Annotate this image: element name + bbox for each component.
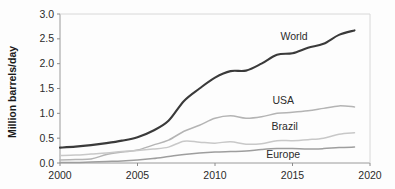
x-tick-label: 2005 xyxy=(126,169,150,181)
y-axis-title: Million barrels/day xyxy=(6,46,18,138)
y-tick-label: 0.0 xyxy=(39,157,54,169)
x-tick-label: 2015 xyxy=(281,169,305,181)
series-curves xyxy=(60,30,355,162)
x-tick-label: 2010 xyxy=(203,169,227,181)
series-label-brazil: Brazil xyxy=(272,120,298,132)
y-tick-label: 3.0 xyxy=(39,8,54,20)
y-tick-label: 1.0 xyxy=(39,107,54,119)
series-line-world xyxy=(60,30,355,147)
series-label-europe: Europe xyxy=(266,148,300,160)
y-tick-label: 1.5 xyxy=(39,82,54,94)
x-axis-tick-labels: 20002005201020152020 xyxy=(48,169,382,181)
series-label-usa: USA xyxy=(272,94,294,106)
x-tick-label: 2020 xyxy=(358,169,382,181)
line-chart-svg: 0.00.51.01.52.02.53.0 200020052010201520… xyxy=(0,0,395,189)
y-tick-label: 2.5 xyxy=(39,32,54,44)
y-axis-tick-labels: 0.00.51.01.52.02.53.0 xyxy=(39,8,54,169)
chart-container: 0.00.51.01.52.02.53.0 200020052010201520… xyxy=(0,0,395,189)
x-tick-label: 2000 xyxy=(48,169,72,181)
y-tick-label: 2.0 xyxy=(39,57,54,69)
plot-frame xyxy=(60,14,370,163)
series-label-world: World xyxy=(280,30,307,42)
y-tick-label: 0.5 xyxy=(39,132,54,144)
